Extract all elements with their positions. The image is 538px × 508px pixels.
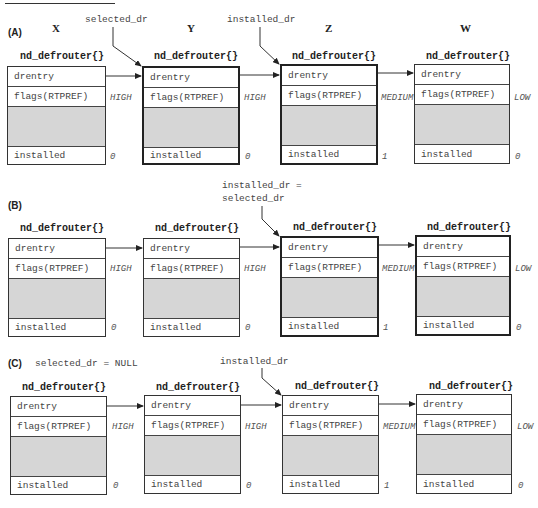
pointer-label-selected-dr: selected_dr	[85, 14, 148, 25]
field-drentry: drentry	[145, 396, 240, 416]
field-installed: installed	[145, 476, 240, 493]
field-installed: installed	[283, 476, 378, 493]
field-reserved	[282, 106, 376, 146]
field-flags: flags(RTPREF)	[282, 86, 376, 106]
installed-value: 0	[246, 481, 251, 491]
field-reserved	[283, 436, 378, 476]
field-drentry: drentry	[282, 238, 377, 258]
field-drentry: drentry	[417, 237, 509, 257]
field-flags: flags(RTPREF)	[417, 415, 511, 435]
field-drentry: drentry	[144, 239, 239, 259]
installed-value: 1	[383, 323, 388, 333]
preference-value: HIGH	[245, 422, 267, 432]
field-flags: flags(RTPREF)	[144, 259, 239, 279]
field-reserved	[8, 107, 105, 147]
panel-label-b: (B)	[8, 200, 22, 211]
struct-title: nd_defrouter{}	[20, 223, 104, 234]
column-label-y: Y	[187, 22, 195, 34]
field-installed: installed	[144, 319, 239, 336]
preference-value: MEDIUM	[382, 264, 414, 274]
field-reserved	[9, 279, 105, 319]
struct-title: nd_defrouter{}	[156, 382, 240, 393]
struct-title: nd_defrouter{}	[295, 381, 379, 392]
field-flags: flags(RTPREF)	[145, 416, 240, 436]
struct-title: nd_defrouter{}	[20, 51, 104, 62]
installed-value: 0	[111, 323, 116, 333]
field-reserved	[417, 435, 511, 475]
struct-title: nd_defrouter{}	[22, 382, 106, 393]
field-reserved	[144, 279, 239, 319]
field-drentry: drentry	[417, 395, 511, 415]
struct-title: nd_defrouter{}	[293, 222, 377, 233]
installed-value: 0	[516, 323, 521, 333]
header-rule	[5, 3, 115, 4]
field-installed: installed	[11, 477, 106, 494]
defrouter-box-c-y: drentry flags(RTPREF) installed	[144, 395, 241, 494]
preference-value: LOW	[517, 422, 533, 432]
field-drentry: drentry	[415, 65, 509, 85]
field-reserved	[282, 278, 377, 318]
field-installed: installed	[144, 148, 238, 163]
field-reserved	[144, 108, 238, 148]
preference-value: HIGH	[110, 93, 132, 103]
struct-title: nd_defrouter{}	[155, 223, 239, 234]
installed-value: 0	[518, 481, 523, 491]
pointer-label-selected-dr: selected_dr	[222, 193, 285, 204]
defrouter-box-b-y: drentry flags(RTPREF) installed	[143, 238, 240, 337]
installed-value: 0	[515, 152, 520, 162]
struct-title: nd_defrouter{}	[292, 51, 376, 62]
defrouter-box-a-y: drentry flags(RTPREF) installed	[142, 66, 240, 165]
column-label-w: W	[460, 22, 471, 34]
column-label-z: Z	[325, 22, 332, 34]
defrouter-box-a-z: drentry flags(RTPREF) installed	[280, 64, 378, 165]
field-reserved	[145, 436, 240, 476]
selected-dr-null-note: selected_dr = NULL	[35, 358, 138, 369]
field-drentry: drentry	[283, 396, 378, 416]
struct-title: nd_defrouter{}	[427, 222, 511, 233]
field-installed: installed	[8, 147, 105, 164]
preference-value: MEDIUM	[381, 93, 413, 103]
installed-value: 1	[382, 152, 387, 162]
field-flags: flags(RTPREF)	[8, 87, 105, 107]
field-drentry: drentry	[8, 67, 105, 87]
field-installed: installed	[417, 475, 511, 493]
defrouter-box-c-z: drentry flags(RTPREF) installed	[282, 395, 379, 494]
struct-title: nd_defrouter{}	[154, 51, 238, 62]
field-drentry: drentry	[282, 66, 376, 86]
struct-title: nd_defrouter{}	[426, 51, 510, 62]
field-installed: installed	[417, 317, 509, 334]
preference-value: MEDIUM	[383, 422, 415, 432]
field-flags: flags(RTPREF)	[144, 88, 238, 108]
field-installed: installed	[9, 319, 105, 336]
installed-value: 0	[113, 481, 118, 491]
field-installed: installed	[282, 318, 377, 335]
defrouter-box-b-x: drentry flags(RTPREF) installed	[8, 238, 106, 337]
struct-title: nd_defrouter{}	[429, 381, 513, 392]
preference-value: HIGH	[110, 264, 132, 274]
field-flags: flags(RTPREF)	[282, 258, 377, 278]
installed-value: 0	[245, 323, 250, 333]
preference-value: HIGH	[244, 93, 266, 103]
installed-value: 0	[110, 152, 115, 162]
pointer-label-installed-dr: installed_dr	[227, 14, 295, 25]
field-reserved	[415, 105, 509, 145]
preference-value: HIGH	[244, 264, 266, 274]
field-reserved	[417, 277, 509, 317]
installed-value: 1	[384, 481, 389, 491]
field-drentry: drentry	[144, 68, 238, 88]
field-flags: flags(RTPREF)	[417, 257, 509, 277]
field-flags: flags(RTPREF)	[283, 416, 378, 436]
preference-value: LOW	[515, 264, 531, 274]
field-flags: flags(RTPREF)	[11, 417, 106, 437]
panel-label-c: (C)	[8, 358, 22, 369]
column-label-x: X	[52, 22, 60, 34]
preference-value: HIGH	[112, 422, 134, 432]
field-drentry: drentry	[11, 397, 106, 417]
pointer-label-installed-dr: installed_dr	[220, 356, 288, 367]
field-flags: flags(RTPREF)	[9, 259, 105, 279]
field-installed: installed	[282, 146, 376, 163]
defrouter-box-b-w: drentry flags(RTPREF) installed	[415, 235, 511, 336]
defrouter-box-a-x: drentry flags(RTPREF) installed	[7, 66, 106, 165]
field-flags: flags(RTPREF)	[415, 85, 509, 105]
installed-value: 0	[245, 152, 250, 162]
